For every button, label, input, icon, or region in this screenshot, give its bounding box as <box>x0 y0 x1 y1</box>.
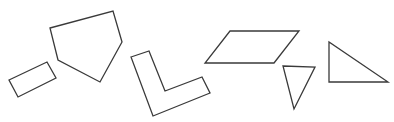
shapes-svg <box>0 0 394 122</box>
rectangle-shape <box>9 62 56 97</box>
right-triangle-shape <box>329 42 388 82</box>
shapes-canvas <box>0 0 394 122</box>
acute-triangle-shape <box>283 66 315 109</box>
l-shape <box>131 51 210 116</box>
parallelogram-shape <box>205 31 299 63</box>
pentagon-shape <box>50 11 122 82</box>
